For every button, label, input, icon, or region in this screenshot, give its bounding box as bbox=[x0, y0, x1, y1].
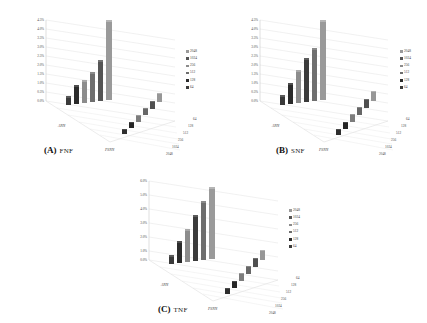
category-label-ann: ANN bbox=[58, 124, 65, 128]
bar-psnn-64 bbox=[225, 289, 230, 294]
bar-psnn-128 bbox=[232, 282, 237, 288]
depth-tick: 128 bbox=[291, 283, 296, 287]
legend-item: 64 bbox=[186, 84, 197, 91]
legend-item: 1024 bbox=[186, 55, 197, 62]
legend-swatch-icon bbox=[186, 86, 189, 89]
bar-ann-1024 bbox=[98, 62, 103, 101]
bar-ann-2048 bbox=[106, 22, 112, 100]
y-tick: 3.0% bbox=[37, 45, 44, 49]
legend-label: 128 bbox=[404, 79, 409, 82]
bar-psnn-256 bbox=[136, 116, 141, 122]
legend-tnf: 2048 1024 256 512 128 bbox=[289, 207, 300, 250]
depth-tick: 512 bbox=[183, 131, 188, 135]
plot-area-fnf: 4.5% 4.0% 3.5% 3.0% 2.5% 2.0% 1.5% 1.0% … bbox=[0, 2, 214, 164]
depth-tick: 64 bbox=[193, 117, 196, 121]
bar-psnn-64 bbox=[122, 130, 127, 134]
legend-swatch-icon bbox=[400, 65, 403, 68]
y-tick: 4.5% bbox=[37, 18, 44, 22]
bar-psnn-512 bbox=[246, 267, 251, 274]
legend-swatch-icon bbox=[400, 50, 403, 53]
bar-ann-64 bbox=[66, 98, 71, 105]
legend-label: 1024 bbox=[293, 216, 300, 219]
figure-three-panel-3d-bar-charts: 4.5% 4.0% 3.5% 3.0% 2.5% 2.0% 1.5% 1.0% … bbox=[0, 0, 427, 323]
depth-tick: 2048 bbox=[166, 152, 173, 156]
y-tick: 2.0% bbox=[251, 63, 258, 67]
category-label-ann: ANN bbox=[161, 283, 168, 287]
legend-swatch-icon bbox=[289, 224, 292, 227]
y-tick: 6.0% bbox=[140, 179, 147, 183]
bar-psnn-1024 bbox=[150, 102, 155, 109]
legend-label: 1024 bbox=[190, 57, 197, 60]
legend-label: 64 bbox=[190, 86, 193, 89]
depth-tick: 256 bbox=[281, 297, 286, 301]
bar-psnn-1024 bbox=[253, 259, 258, 267]
y-tick: 2.0% bbox=[37, 63, 44, 67]
depth-tick: 1024 bbox=[385, 145, 392, 149]
panel-caption-tnf: (C) TNF bbox=[158, 304, 188, 314]
legend-label: 128 bbox=[293, 238, 298, 241]
panel-caption-snf: (B) SNF bbox=[276, 145, 305, 155]
y-tick: 0.5% bbox=[37, 90, 44, 94]
y-tick: 1.0% bbox=[140, 249, 147, 253]
y-tick: 0.0% bbox=[37, 99, 44, 103]
legend-item: 256 bbox=[289, 221, 300, 228]
legend-item: 128 bbox=[289, 236, 300, 243]
depth-tick: 128 bbox=[188, 124, 193, 128]
legend-swatch-icon bbox=[186, 79, 189, 82]
legend-label: 256 bbox=[404, 64, 409, 67]
legend-swatch-icon bbox=[186, 50, 189, 53]
y-tick: 1.0% bbox=[251, 81, 258, 85]
bar-ann-128 bbox=[177, 243, 182, 263]
depth-tick: 1024 bbox=[275, 304, 282, 308]
y-tick: 3.5% bbox=[37, 36, 44, 40]
legend-swatch-icon bbox=[186, 65, 189, 68]
bar-ann-256 bbox=[296, 72, 301, 103]
caption-letter: (A) bbox=[44, 145, 57, 155]
legend-label: 512 bbox=[293, 230, 298, 233]
legend-label: 512 bbox=[190, 71, 195, 74]
legend-swatch-icon bbox=[400, 79, 403, 82]
depth-tick: 2048 bbox=[379, 152, 386, 156]
legend-label: 256 bbox=[190, 64, 195, 67]
y-tick: 2.5% bbox=[37, 54, 44, 58]
bar-psnn-512 bbox=[357, 108, 362, 115]
y-axis-ticks-snf: 4.5% 4.0% 3.5% 3.0% 2.5% 2.0% 1.5% 1.0% … bbox=[218, 2, 258, 164]
bar-psnn-1024 bbox=[364, 100, 369, 108]
bar-psnn-256 bbox=[350, 115, 355, 122]
legend-item: 128 bbox=[400, 77, 411, 84]
legend-swatch-icon bbox=[289, 209, 292, 212]
y-axis-ticks-fnf: 4.5% 4.0% 3.5% 3.0% 2.5% 2.0% 1.5% 1.0% … bbox=[4, 2, 44, 164]
legend-item: 256 bbox=[186, 62, 197, 69]
legend-label: 2048 bbox=[293, 209, 300, 212]
bar-psnn-2048 bbox=[371, 92, 376, 101]
y-tick: 4.5% bbox=[251, 18, 258, 22]
legend-label: 128 bbox=[190, 79, 195, 82]
legend-swatch-icon bbox=[289, 245, 292, 248]
depth-tick: 256 bbox=[391, 138, 396, 142]
category-label-psnn: PSNN bbox=[105, 148, 114, 152]
bar-ann-2048 bbox=[320, 22, 326, 100]
bar-ann-512 bbox=[90, 74, 95, 102]
legend-swatch-icon bbox=[400, 57, 403, 60]
legend-fnf: 2048 1024 256 512 128 bbox=[186, 48, 197, 91]
bar-ann-64 bbox=[280, 97, 285, 105]
category-label-ann: ANN bbox=[272, 124, 279, 128]
bar-ann-512 bbox=[304, 60, 309, 102]
y-tick: 4.0% bbox=[140, 207, 147, 211]
legend-swatch-icon bbox=[289, 238, 292, 241]
y-tick: 2.5% bbox=[251, 54, 258, 58]
legend-swatch-icon bbox=[186, 72, 189, 75]
legend-item: 128 bbox=[186, 77, 197, 84]
legend-item: 2048 bbox=[289, 207, 300, 214]
legend-label: 64 bbox=[404, 86, 407, 89]
y-tick: 1.0% bbox=[37, 81, 44, 85]
depth-tick: 256 bbox=[178, 138, 183, 142]
legend-label: 512 bbox=[404, 71, 409, 74]
legend-swatch-icon bbox=[400, 72, 403, 75]
bar-ann-256 bbox=[185, 231, 190, 262]
y-tick: 0.5% bbox=[251, 90, 258, 94]
depth-tick: 2048 bbox=[269, 311, 276, 315]
legend-item: 256 bbox=[400, 62, 411, 69]
legend-label: 1024 bbox=[404, 57, 411, 60]
y-tick: 3.0% bbox=[140, 221, 147, 225]
